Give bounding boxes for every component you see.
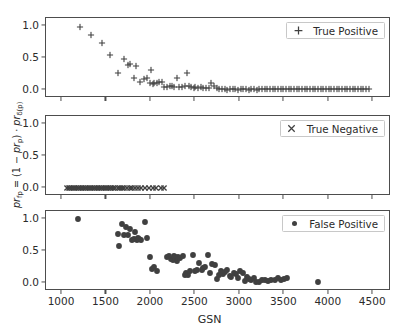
data-point	[146, 254, 153, 261]
legend-true-negative[interactable]: True Negative	[280, 120, 385, 137]
y-tick-label: 0.0	[0, 276, 39, 288]
x-tick-mark	[149, 195, 150, 199]
data-point	[148, 66, 155, 73]
x-tick-mark	[60, 290, 61, 294]
x-tick-mark	[327, 290, 328, 294]
x-tick-mark	[149, 97, 150, 101]
y-tick-mark	[42, 282, 46, 283]
y-tick-label: 0.5	[0, 51, 39, 63]
x-tick-mark	[60, 97, 61, 101]
y-tick-mark	[42, 187, 46, 188]
data-point	[315, 278, 322, 285]
x-tick-mark	[372, 97, 373, 101]
x-tick-mark	[372, 195, 373, 199]
x-tick-label: 2000	[137, 295, 164, 307]
x-tick-mark	[283, 97, 284, 101]
y-tick-label: 1.0	[0, 19, 39, 31]
x-tick-mark	[105, 195, 106, 199]
x-tick-mark	[194, 97, 195, 101]
legend-label-true-positive: True Positive	[313, 25, 378, 37]
x-tick-mark	[194, 290, 195, 294]
x-tick-label: 4000	[314, 295, 341, 307]
subplot-false-positive: False Positive	[45, 210, 390, 290]
data-point	[115, 69, 122, 76]
data-point	[99, 40, 106, 47]
data-point	[116, 243, 123, 250]
y-tick-mark	[42, 56, 46, 57]
subplot-true-positive: True Positive	[45, 17, 390, 97]
x-tick-mark	[238, 290, 239, 294]
legend-false-positive[interactable]: False Positive	[282, 215, 385, 232]
y-tick-mark	[42, 217, 46, 218]
y-tick-label: 1.0	[0, 212, 39, 224]
data-point	[144, 235, 151, 242]
data-point	[107, 52, 114, 59]
x-tick-label: 1500	[92, 295, 119, 307]
data-point	[161, 185, 168, 192]
figure: True Positive True Negative False Positi…	[0, 0, 419, 331]
circle-icon	[288, 219, 300, 228]
x-tick-label: 3500	[270, 295, 297, 307]
x-tick-mark	[105, 97, 106, 101]
x-tick-label: 4500	[359, 295, 386, 307]
y-tick-mark	[42, 24, 46, 25]
data-point	[204, 251, 211, 258]
x-tick-mark	[105, 290, 106, 294]
x-tick-mark	[60, 195, 61, 199]
x-tick-mark	[372, 290, 373, 294]
legend-true-positive[interactable]: True Positive	[286, 22, 385, 39]
cross-icon	[286, 124, 298, 133]
x-tick-label: 3000	[225, 295, 252, 307]
y-tick-mark	[42, 249, 46, 250]
x-tick-label: 1000	[48, 295, 75, 307]
y-axis-label: prfp = (1 − prp) · prδ(p)	[11, 102, 24, 208]
x-tick-mark	[194, 195, 195, 199]
data-point	[283, 275, 290, 282]
data-point	[153, 267, 160, 274]
y-tick-mark	[42, 154, 46, 155]
x-tick-mark	[283, 195, 284, 199]
y-tick-mark	[42, 122, 46, 123]
x-tick-mark	[283, 290, 284, 294]
data-point	[365, 85, 372, 92]
data-point	[206, 270, 213, 277]
x-tick-mark	[327, 97, 328, 101]
x-tick-mark	[149, 290, 150, 294]
legend-label-true-negative: True Negative	[307, 123, 378, 135]
data-point	[173, 74, 180, 81]
data-point	[77, 24, 84, 31]
x-axis-label: GSN	[0, 313, 419, 326]
data-point	[132, 62, 139, 69]
x-tick-mark	[238, 195, 239, 199]
data-point	[183, 69, 190, 76]
data-point	[75, 216, 82, 223]
x-tick-mark	[327, 195, 328, 199]
data-point	[189, 251, 196, 258]
data-point	[179, 253, 186, 260]
y-tick-label: 0.0	[0, 83, 39, 95]
y-tick-mark	[42, 89, 46, 90]
y-tick-label: 0.5	[0, 244, 39, 256]
x-tick-mark	[238, 97, 239, 101]
subplot-true-negative: True Negative	[45, 115, 390, 195]
data-point	[142, 219, 149, 226]
legend-label-false-positive: False Positive	[309, 218, 378, 230]
plus-icon	[292, 26, 304, 35]
x-tick-label: 2500	[181, 295, 208, 307]
data-point	[88, 32, 95, 39]
